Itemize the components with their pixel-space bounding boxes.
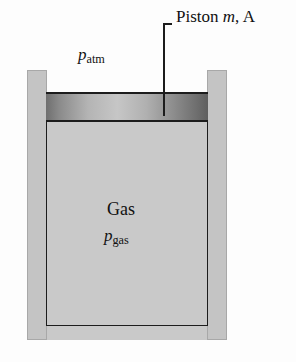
atmospheric-pressure-symbol: p bbox=[78, 45, 87, 64]
piston-label: Piston m, A bbox=[176, 8, 255, 25]
cylinder-wall-left bbox=[27, 70, 47, 340]
gas-chamber bbox=[46, 120, 208, 326]
gas-pressure-symbol: p bbox=[104, 226, 113, 245]
piston-band bbox=[46, 92, 208, 122]
gas-pressure-subscript: gas bbox=[113, 233, 129, 247]
piston-area-symbol: A bbox=[243, 7, 255, 26]
physics-diagram-gas-piston: Piston m, A patm Gas pgas bbox=[0, 0, 296, 362]
cylinder-wall-right bbox=[207, 70, 227, 340]
atmospheric-pressure-subscript: atm bbox=[87, 52, 105, 66]
gas-pressure-label: pgas bbox=[104, 227, 129, 247]
atmospheric-pressure-label: patm bbox=[78, 46, 105, 66]
piston-leader-line bbox=[163, 23, 165, 116]
piston-mass-symbol: m bbox=[223, 7, 235, 26]
gas-label: Gas bbox=[107, 200, 135, 218]
piston-label-text: Piston bbox=[176, 7, 219, 26]
piston-label-separator: , bbox=[235, 7, 243, 26]
